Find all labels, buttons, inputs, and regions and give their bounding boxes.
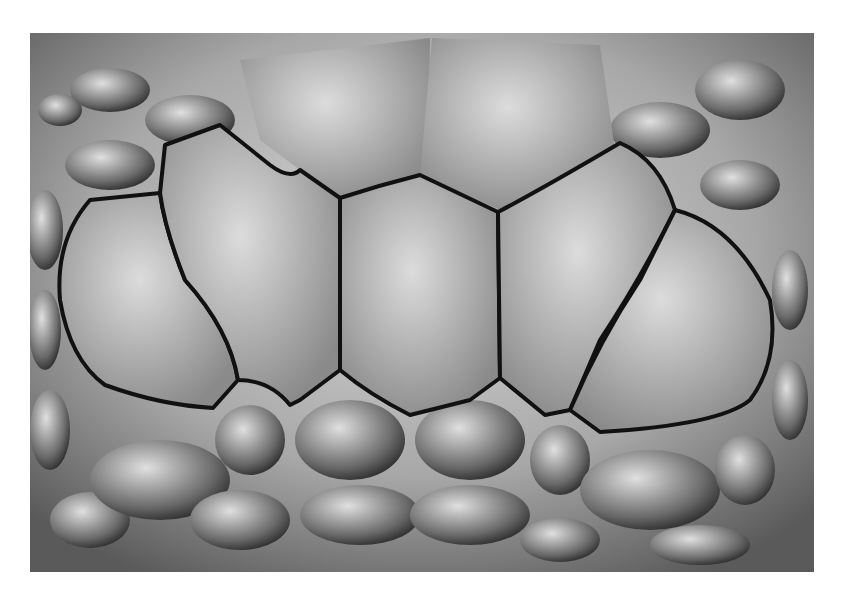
scale-photograph [30, 33, 814, 572]
scute-3 [340, 175, 500, 415]
